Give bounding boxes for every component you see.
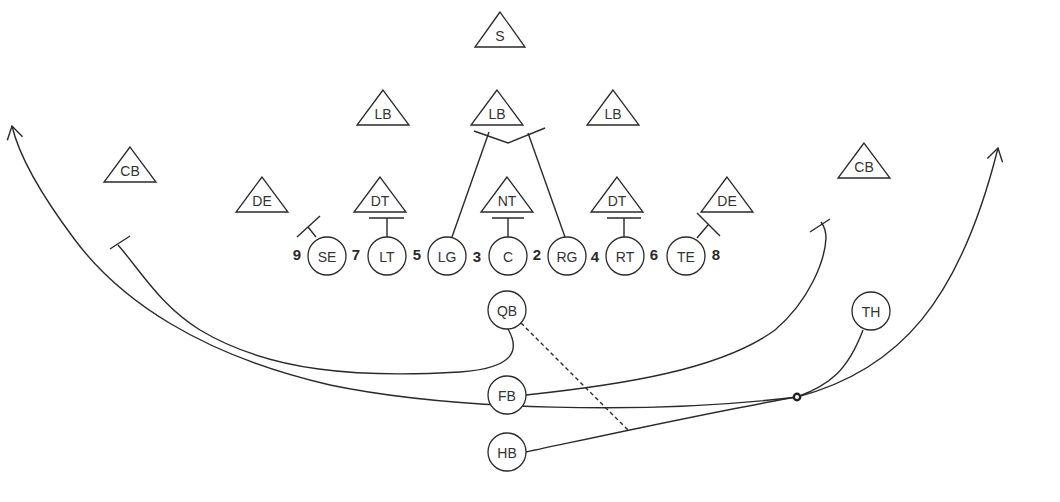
- defender-dt-l: DT: [354, 177, 406, 212]
- player-rg: RG: [548, 237, 586, 275]
- route-lg-to-lb: [452, 132, 489, 237]
- mesh-point-layer: [794, 394, 800, 400]
- defender-cb-r: CB: [838, 143, 890, 178]
- gap-number: 5: [413, 246, 421, 263]
- player-hb: HB: [488, 433, 526, 471]
- player-qb: QB: [488, 291, 526, 329]
- gap-number: 3: [473, 248, 481, 265]
- defender-label: DT: [371, 193, 390, 209]
- play-diagram: SLBLBLBCBCBDEDTNTDTDE SELTLGCRGRTTEQBFBH…: [0, 0, 1060, 502]
- gap-number: 6: [650, 246, 658, 263]
- player-th: TH: [852, 292, 890, 330]
- defender-label: S: [495, 28, 504, 44]
- defender-lb-r: LB: [587, 90, 639, 125]
- defense-layer: SLBLBLBCBCBDEDTNTDTDE: [104, 12, 890, 212]
- gap-number: 9: [293, 246, 301, 263]
- defender-label: NT: [498, 193, 517, 209]
- route-hb-sweep: [526, 397, 797, 452]
- block-te: [697, 213, 720, 238]
- defender-cb-l: CB: [104, 147, 156, 182]
- defender-label: CB: [120, 163, 139, 179]
- defender-dt-r: DT: [591, 177, 643, 212]
- gap-number: 4: [591, 248, 600, 265]
- defender-label: LB: [604, 106, 621, 122]
- defender-s: S: [475, 12, 525, 47]
- player-label: LG: [438, 249, 457, 265]
- defender-label: DT: [608, 193, 627, 209]
- player-fb: FB: [488, 376, 526, 414]
- defender-label: CB: [854, 159, 873, 175]
- player-rt: RT: [606, 237, 644, 275]
- block-nt: [492, 218, 524, 237]
- mesh-point-icon: [794, 394, 800, 400]
- defender-de-l: DE: [236, 177, 288, 212]
- defender-label: LB: [374, 106, 391, 122]
- gap-number: 7: [352, 246, 360, 263]
- route-deep-right: [797, 148, 998, 397]
- player-te: TE: [667, 237, 705, 275]
- player-label: QB: [497, 303, 517, 319]
- player-label: HB: [497, 445, 516, 461]
- defender-nt: NT: [481, 177, 533, 212]
- defender-lb-m: LB: [471, 90, 523, 125]
- gap-number: 8: [712, 246, 720, 263]
- player-label: TE: [677, 249, 695, 265]
- player-se: SE: [308, 237, 346, 275]
- block-dt-r: [607, 218, 641, 237]
- player-label: TH: [862, 304, 881, 320]
- player-label: SE: [318, 249, 337, 265]
- defender-label: DE: [252, 193, 271, 209]
- player-label: RG: [557, 249, 578, 265]
- player-label: FB: [498, 388, 516, 404]
- route-th-to-mesh: [797, 330, 863, 397]
- block-cb-r: [810, 219, 830, 232]
- route-rg-to-lb: [528, 133, 565, 237]
- defender-de-r: DE: [701, 177, 753, 212]
- defender-lb-l: LB: [357, 90, 409, 125]
- player-lt: LT: [368, 237, 406, 275]
- player-label: LT: [379, 249, 395, 265]
- block-se: [297, 216, 320, 237]
- block-dt-l: [369, 218, 404, 237]
- defender-label: LB: [488, 106, 505, 122]
- player-lg: LG: [428, 237, 466, 275]
- defender-label: DE: [717, 193, 736, 209]
- gap-number: 2: [533, 246, 541, 263]
- player-c: C: [489, 237, 527, 275]
- block-lb-mid: [474, 128, 545, 143]
- player-label: C: [503, 249, 513, 265]
- route-qb-pitch: [521, 323, 630, 432]
- player-label: RT: [616, 249, 635, 265]
